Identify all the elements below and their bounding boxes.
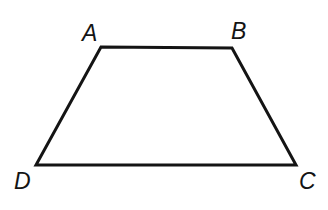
vertex-label-d: D	[14, 170, 31, 193]
vertex-label-b: B	[231, 20, 246, 43]
figure-canvas: A B C D	[0, 0, 328, 210]
trapezoid-shape	[36, 47, 296, 165]
vertex-label-c: C	[299, 170, 316, 193]
vertex-label-a: A	[82, 22, 97, 45]
trapezoid-figure	[0, 0, 328, 210]
